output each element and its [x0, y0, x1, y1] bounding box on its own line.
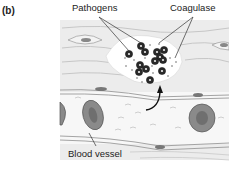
label-blood-vessel: Blood vessel: [68, 148, 122, 159]
label-coagulase: Coagulase: [170, 2, 215, 13]
tissue-illustration: [0, 0, 229, 170]
red-blood-cell: [189, 104, 215, 132]
endothelial-nucleus: [95, 87, 107, 91]
label-pathogens: Pathogens: [72, 2, 117, 13]
endothelial-nucleus: [193, 93, 203, 97]
endothelial-nucleus: [155, 145, 165, 149]
